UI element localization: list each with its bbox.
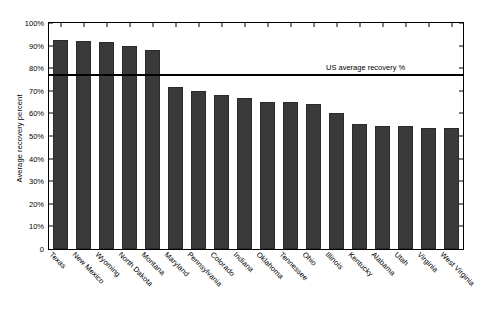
x-axis-category-labels: TexasNew MexicoWyomingNorth DakotaMontan…	[48, 250, 464, 326]
x-category-label: Virginia	[415, 250, 439, 274]
bar	[260, 102, 274, 249]
bar	[145, 50, 159, 249]
bar	[237, 98, 251, 249]
y-tick-label: 10%	[29, 222, 44, 231]
plot-area: 010%20%30%40%50%60%70%80%90%100% US aver…	[48, 22, 464, 250]
bar	[191, 91, 205, 249]
y-tick-label: 30%	[29, 177, 44, 186]
bar	[53, 40, 67, 249]
bar	[168, 87, 182, 249]
bar	[76, 41, 90, 249]
y-tick-label: 0	[40, 245, 44, 254]
x-category-label: Ohio	[300, 250, 318, 268]
y-tick-label: 90%	[29, 41, 44, 50]
bar	[352, 124, 366, 249]
us-average-line	[49, 74, 463, 76]
y-tick-label: 40%	[29, 154, 44, 163]
y-tick-label: 60%	[29, 109, 44, 118]
y-axis-title: Average recovery percent	[15, 64, 24, 214]
y-tick-label: 100%	[25, 19, 44, 28]
x-category-label: Utah	[392, 250, 410, 268]
bar	[214, 95, 228, 249]
y-tick-label: 50%	[29, 132, 44, 141]
bar	[421, 128, 435, 249]
bar	[122, 46, 136, 249]
x-category-label: Illinois	[323, 250, 344, 271]
bar	[283, 102, 297, 249]
bar	[329, 113, 343, 249]
us-average-line-label: US average recovery %	[323, 63, 408, 72]
x-category-label: West Virginia	[438, 250, 476, 288]
bar-series	[49, 23, 463, 249]
y-tick-label: 70%	[29, 86, 44, 95]
bar	[306, 104, 320, 249]
y-tick-label: 80%	[29, 64, 44, 73]
x-category-label: Texas	[47, 250, 67, 270]
y-tick-label: 20%	[29, 199, 44, 208]
bar	[375, 126, 389, 249]
bar-chart-figure: Average recovery percent 010%20%30%40%50…	[0, 0, 489, 326]
bar	[398, 126, 412, 249]
bar	[444, 128, 458, 249]
